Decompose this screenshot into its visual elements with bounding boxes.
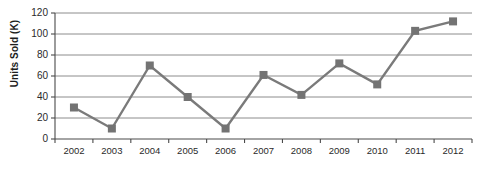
- x-tick-label-2009: 2009: [319, 145, 359, 156]
- x-tick-label-2012: 2012: [433, 145, 473, 156]
- data-point-2011: [411, 27, 419, 35]
- x-tick-label-2007: 2007: [244, 145, 284, 156]
- x-tick-label-2005: 2005: [168, 145, 208, 156]
- data-point-2012: [449, 17, 457, 25]
- y-axis-ticks: [51, 13, 55, 139]
- plot-area: [0, 0, 482, 169]
- x-tick-label-2003: 2003: [92, 145, 132, 156]
- data-point-2007: [260, 71, 268, 79]
- line-chart: Units Sold (K) 120 100 80 60 40 20 0 200…: [0, 0, 482, 169]
- data-point-2003: [108, 125, 116, 133]
- data-point-2005: [184, 93, 192, 101]
- data-point-2002: [70, 104, 78, 112]
- x-tick-label-2002: 2002: [54, 145, 94, 156]
- x-tick-label-2008: 2008: [281, 145, 321, 156]
- data-point-2010: [373, 80, 381, 88]
- data-point-2004: [146, 62, 154, 70]
- gridlines: [55, 13, 472, 118]
- data-point-2009: [335, 59, 343, 67]
- data-point-2006: [222, 125, 230, 133]
- x-tick-label-2011: 2011: [395, 145, 435, 156]
- x-tick-label-2010: 2010: [357, 145, 397, 156]
- x-axis-ticks: [55, 139, 472, 143]
- x-tick-label-2006: 2006: [206, 145, 246, 156]
- data-point-2008: [297, 91, 305, 99]
- data-markers: [70, 17, 457, 132]
- x-tick-label-2004: 2004: [130, 145, 170, 156]
